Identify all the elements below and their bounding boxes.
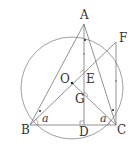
- label-O: O: [60, 72, 70, 86]
- angle-arc-E: [80, 70, 84, 73]
- label-D: D: [79, 125, 89, 139]
- label-B: B: [21, 123, 30, 137]
- angle-label-C: a: [100, 112, 107, 125]
- geometry-diagram: A F O E G B D C a a: [0, 0, 136, 154]
- label-F: F: [119, 31, 127, 45]
- equal-mark-AE-2: [83, 53, 84, 54]
- label-G: G: [75, 92, 85, 106]
- circumcircle: [21, 37, 123, 139]
- angle-dot-B: [39, 110, 41, 112]
- dot-O: [71, 82, 73, 84]
- angle-label-B: a: [42, 112, 49, 125]
- equal-mark-FC: [115, 80, 116, 81]
- equal-mark-AE-1: [84, 39, 86, 41]
- label-E: E: [86, 72, 95, 86]
- angle-dot-C: [112, 109, 114, 111]
- label-A: A: [79, 8, 89, 22]
- label-C: C: [117, 123, 126, 137]
